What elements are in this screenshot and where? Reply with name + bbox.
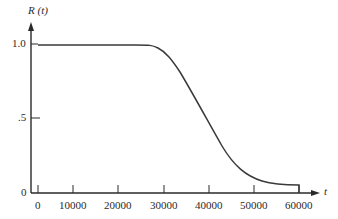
x-axis-arrow-icon [311, 190, 320, 196]
x-ticks [38, 185, 299, 193]
x-tick-label: 60000 [285, 199, 313, 211]
x-tick-label: 10000 [59, 199, 87, 211]
y-tick-label-1: 1.0 [12, 37, 26, 49]
x-tick-label: 20000 [104, 199, 132, 211]
x-tick-label: 0 [35, 199, 41, 211]
y-tick-label-half: .5 [18, 111, 26, 123]
x-axis-title: t [324, 185, 327, 197]
reliability-curve [38, 45, 299, 193]
x-tick-label: 30000 [150, 199, 178, 211]
y-axis-title: R (t) [28, 4, 48, 16]
x-tick-label: 50000 [240, 199, 268, 211]
y-axis-arrow-icon [28, 22, 34, 31]
y-tick-label-0: 0 [21, 186, 27, 198]
x-tick-label: 40000 [195, 199, 223, 211]
reliability-chart [0, 0, 338, 219]
